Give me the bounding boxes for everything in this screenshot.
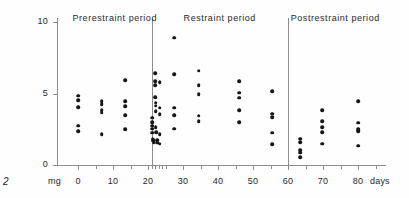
data-point [100,132,104,136]
x-axis-tick [288,166,289,170]
data-point [197,83,201,87]
y-axis-line [57,18,58,166]
data-point [197,92,201,96]
data-point [158,112,162,116]
x-axis-tick [183,166,184,170]
y-axis-tick-label: 0 [26,159,48,169]
y-axis-unit-label: mg [48,176,61,186]
x-axis-tick [323,166,324,170]
data-point [321,142,325,146]
x-axis-tick-label: 60 [271,176,305,186]
data-point [76,98,80,102]
data-point [172,36,176,40]
data-point [172,106,176,110]
x-axis-tick-label: 30 [166,176,200,186]
x-axis-tick [358,166,359,170]
x-axis-tick-label: 50 [236,176,270,186]
data-point [76,130,80,134]
y-axis-tick-label: 5 [26,88,48,98]
data-point [270,115,274,119]
data-point [356,144,360,148]
x-axis-days-label: days [370,176,390,186]
data-point [76,124,80,128]
data-point [172,113,176,117]
x-axis-tick [148,166,149,170]
data-point [270,90,274,94]
data-point [270,131,274,135]
data-point [123,78,127,82]
x-axis-tick [96,166,97,169]
data-point [100,111,104,115]
data-point [197,120,201,124]
data-point [356,100,360,104]
x-axis-tick-label: 70 [306,176,340,186]
data-point [158,142,162,146]
x-axis-tick [376,166,377,169]
data-point [123,100,127,104]
data-point [153,95,157,99]
scatter-plot-area: 051001020304050607080Prerestraint period… [0,0,409,198]
data-point [154,125,158,129]
x-axis-tick [113,166,114,170]
x-axis-tick [162,166,163,169]
x-axis-tick [218,166,219,170]
data-point [237,91,241,95]
data-point [172,72,176,76]
x-axis-tick-label: 40 [201,176,235,186]
data-point [321,130,325,134]
data-point [321,120,325,124]
data-point [321,125,325,129]
data-point [123,113,127,117]
data-point [172,127,176,131]
data-point [100,102,104,106]
x-axis-tick-label: 0 [61,176,95,186]
data-point [197,114,201,118]
data-point [76,105,80,109]
data-point [76,94,80,98]
data-point [237,108,241,112]
data-point [197,69,201,73]
x-axis-tick [78,166,79,170]
data-point [237,120,241,124]
data-point [150,116,154,120]
data-point [153,72,157,76]
data-point [158,106,162,110]
x-axis-tick [159,166,160,169]
x-axis-tick [306,166,307,169]
x-axis-tick [166,166,167,169]
data-point [237,96,241,100]
x-axis-tick-label: 20 [131,176,165,186]
data-point [237,80,241,84]
data-point [153,83,157,87]
y-axis-tick [53,94,57,95]
data-point [270,142,274,146]
x-axis-tick-label: 10 [96,176,130,186]
data-point [298,155,302,159]
data-point [356,130,360,134]
x-axis-tick [201,166,202,169]
data-point [298,140,302,144]
data-point [356,121,360,125]
x-axis-tick [131,166,132,169]
data-point [150,131,154,135]
x-axis-line [57,165,386,166]
data-point [158,132,162,136]
period-label-postrestraint: Postrestraint period [265,13,405,23]
data-point [321,108,325,112]
period-divider [288,18,289,166]
figure-root: 2 051001020304050607080Prerestraint peri… [0,0,409,198]
x-axis-tick [236,166,237,169]
x-axis-tick [155,166,156,169]
data-point [123,105,127,109]
x-axis-tick [271,166,272,169]
y-axis-tick [53,165,57,166]
x-axis-tick [341,166,342,169]
x-axis-tick [152,166,153,169]
data-point [158,80,162,84]
data-point [298,151,302,155]
data-point [123,127,127,131]
x-axis-tick [253,166,254,170]
